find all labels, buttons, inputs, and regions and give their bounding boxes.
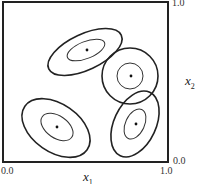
- x2-axis-label: x2: [185, 74, 195, 91]
- x-max-tick: 1.0: [160, 166, 173, 176]
- x-min-tick: 0.0: [1, 166, 14, 176]
- plot-frame: [3, 2, 168, 162]
- y-min-tick: 0.0: [173, 156, 186, 166]
- y-max-tick: 1.0: [172, 0, 185, 8]
- component-bottom-right: [101, 83, 169, 164]
- component-bottom-left: [11, 87, 101, 170]
- x1-axis-label: x1: [83, 170, 93, 184]
- contour-plot: [0, 0, 201, 184]
- component-right-circle: [102, 48, 158, 104]
